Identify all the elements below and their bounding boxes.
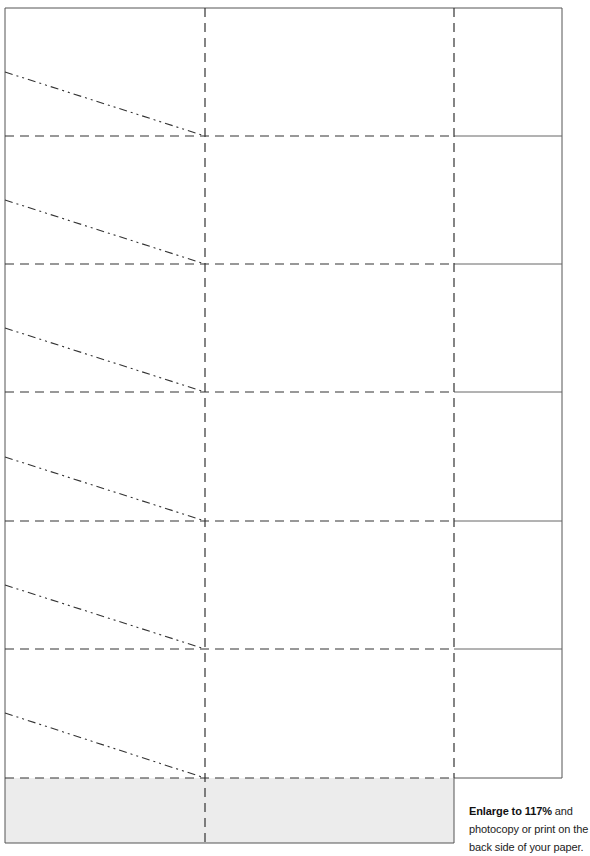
- vertical-fold-lines: [205, 8, 454, 843]
- diagonal-cut-lines: [5, 72, 205, 778]
- print-instruction-bold: Enlarge to 117%: [469, 805, 552, 817]
- outer-frame: [5, 8, 562, 843]
- horizontal-fold-lines: [5, 136, 454, 778]
- shaded-strip: [5, 778, 454, 843]
- print-instruction: Enlarge to 117% and photocopy or print o…: [469, 802, 590, 856]
- panel-lines: [454, 136, 562, 649]
